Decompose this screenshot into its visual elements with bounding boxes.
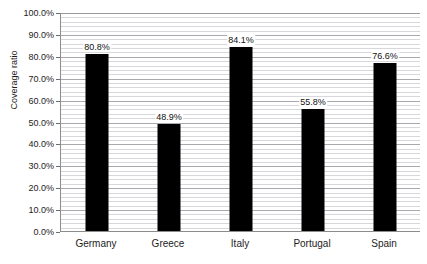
- y-tick-mark: [56, 57, 60, 58]
- y-tick-mark: [56, 123, 60, 124]
- y-tick-label: 70.0%: [0, 74, 54, 84]
- y-tick-mark: [56, 101, 60, 102]
- bar-value-label: 84.1%: [227, 35, 255, 45]
- x-axis-label: Portugal: [293, 238, 330, 249]
- bar[interactable]: [374, 63, 397, 231]
- bar-value-label: 48.9%: [155, 112, 183, 122]
- bar[interactable]: [230, 47, 253, 231]
- bar-chart: Coverage ratio 80.8%48.9%84.1%55.8%76.6%…: [0, 0, 427, 264]
- bar-value-label: 76.6%: [371, 51, 399, 61]
- y-tick-mark: [56, 166, 60, 167]
- bar[interactable]: [158, 124, 181, 231]
- chart-title: [0, 0, 427, 2]
- y-tick-label: 30.0%: [0, 161, 54, 171]
- bar[interactable]: [302, 109, 325, 231]
- y-tick-mark: [56, 188, 60, 189]
- y-tick-mark: [56, 144, 60, 145]
- x-axis-label: Spain: [371, 238, 397, 249]
- y-tick-label: 80.0%: [0, 52, 54, 62]
- y-tick-mark: [56, 210, 60, 211]
- x-axis-label: Greece: [152, 238, 185, 249]
- bar-slot: 76.6%: [349, 13, 421, 231]
- x-axis-label: Italy: [231, 238, 249, 249]
- bar[interactable]: [86, 54, 109, 231]
- y-tick-label: 50.0%: [0, 118, 54, 128]
- bar-value-label: 55.8%: [299, 97, 327, 107]
- y-tick-label: 20.0%: [0, 183, 54, 193]
- bars: 80.8%48.9%84.1%55.8%76.6%: [61, 13, 420, 231]
- plot-area: 80.8%48.9%84.1%55.8%76.6%: [60, 13, 420, 232]
- y-tick-label: 60.0%: [0, 96, 54, 106]
- y-tick-label: 10.0%: [0, 205, 54, 215]
- y-tick-label: 40.0%: [0, 139, 54, 149]
- y-tick-mark: [56, 35, 60, 36]
- bar-slot: 80.8%: [61, 13, 133, 231]
- bar-slot: 84.1%: [205, 13, 277, 231]
- bar-value-label: 80.8%: [83, 42, 111, 52]
- y-tick-mark: [56, 13, 60, 14]
- bar-slot: 48.9%: [133, 13, 205, 231]
- y-tick-mark: [56, 232, 60, 233]
- y-tick-label: 0.0%: [0, 227, 54, 237]
- bar-slot: 55.8%: [277, 13, 349, 231]
- y-tick-label: 100.0%: [0, 8, 54, 18]
- x-axis-label: Germany: [75, 238, 116, 249]
- y-tick-mark: [56, 79, 60, 80]
- y-tick-label: 90.0%: [0, 30, 54, 40]
